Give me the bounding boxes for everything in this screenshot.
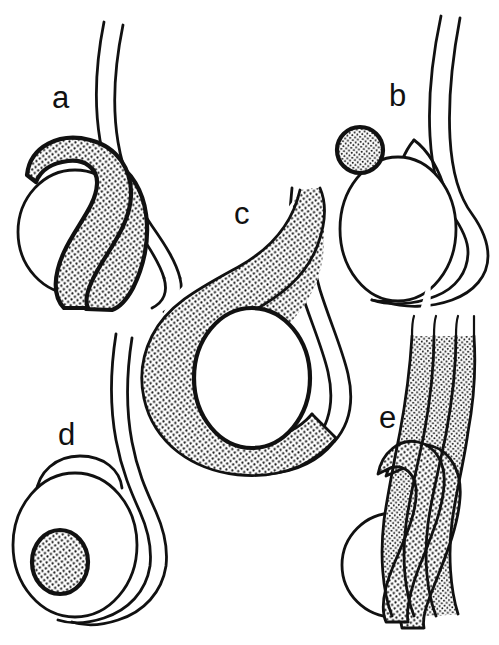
figure-container: a b [0,0,499,645]
panel-label-e: e [379,400,396,435]
panel-d-nucleus [32,530,88,594]
panel-label-c: c [234,196,250,231]
panel-label-a: a [52,80,70,115]
panel-c-nucleus [194,308,310,448]
panel-b-nucleus [340,157,456,301]
illustration-canvas: a b [0,0,499,645]
panel-label-b: b [389,78,406,113]
panel-label-d: d [58,417,75,452]
panel-b-acrosomal-vesicle [337,127,383,173]
